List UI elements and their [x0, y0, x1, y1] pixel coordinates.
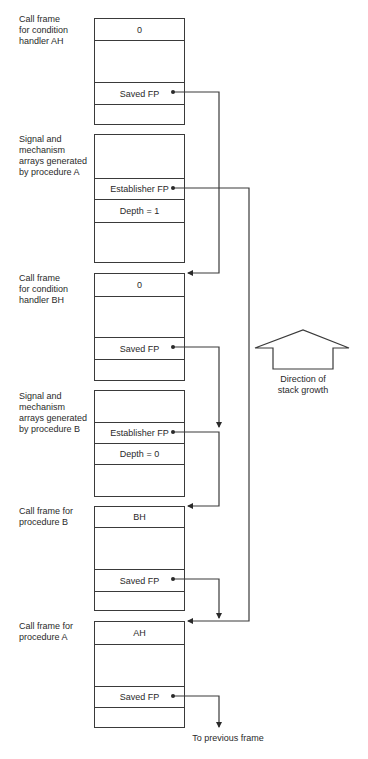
wire-establisher-b	[173, 432, 219, 506]
wire-bh-savedfp	[173, 347, 219, 427]
wire-ah-savedfp	[173, 92, 219, 273]
pointer-dot	[171, 345, 175, 349]
to-previous-frame-label: To previous frame	[188, 733, 268, 744]
pointer-dot	[171, 577, 175, 581]
pointer-dot	[171, 90, 175, 94]
stack-growth-caption: Direction of stack growth	[268, 374, 338, 396]
wire-procb-savedfp	[173, 579, 219, 618]
pointer-dot	[171, 186, 175, 190]
wire-establisher-a	[173, 188, 249, 621]
pointer-dot	[171, 430, 175, 434]
wire-proca-savedfp	[173, 696, 219, 727]
up-arrow-icon	[255, 330, 349, 369]
pointer-dot	[171, 694, 175, 698]
